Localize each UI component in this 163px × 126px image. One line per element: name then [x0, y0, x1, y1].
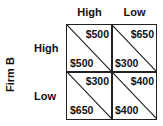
cell-low-high: $300 $650 [67, 72, 112, 119]
row-player-label: Firm B [4, 57, 16, 92]
cell-high-high: $500 $500 [67, 25, 112, 72]
payoff-bottom-left: $650 [70, 104, 93, 116]
payoff-bottom-left: $400 [115, 104, 138, 116]
payoff-top-right: $650 [131, 28, 154, 40]
row-header-high: High [34, 42, 58, 54]
column-header-low: Low [112, 6, 157, 18]
column-header-high: High [67, 6, 112, 18]
payoff-bottom-left: $500 [70, 57, 93, 69]
cell-low-low: $400 $400 [112, 72, 157, 119]
payoff-top-right: $300 [86, 75, 109, 87]
payoff-matrix: $500 $500 $650 $300 $300 $650 $400 $400 [66, 24, 157, 120]
payoff-top-right: $400 [131, 75, 154, 87]
payoff-bottom-left: $300 [115, 57, 138, 69]
cell-high-low: $650 $300 [112, 25, 157, 72]
row-header-low: Low [34, 90, 56, 102]
payoff-top-right: $500 [86, 28, 109, 40]
